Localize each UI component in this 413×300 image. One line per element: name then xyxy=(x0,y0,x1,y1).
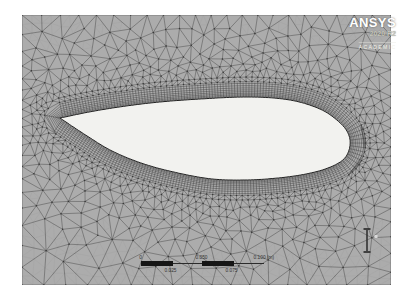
scale-label-max: 0.100 (m) xyxy=(254,255,275,260)
ansys-logo: ANSYS 2020 R2 ACADEMIC xyxy=(334,16,396,53)
ansys-release-text: 2020 R2 xyxy=(334,30,396,37)
mesh-viewport[interactable]: ANSYS 2020 R2 ACADEMIC 0 0.050 0.100 (m)… xyxy=(22,15,391,285)
scale-label-mid: 0.050 xyxy=(196,255,208,260)
scale-bar-segment-2 xyxy=(202,261,234,266)
scale-label-threequarter: 0.075 xyxy=(226,268,238,273)
scale-label-quarter: 0.025 xyxy=(165,268,177,273)
scale-bar: 0 0.050 0.100 (m) 0.025 0.075 xyxy=(141,254,273,278)
scale-bar-segment-1 xyxy=(141,261,173,266)
highlight-node xyxy=(375,235,378,238)
ansys-license-text: ACADEMIC xyxy=(358,42,396,50)
ansys-brand-text: ANSYS xyxy=(334,16,396,29)
mesh-canvas xyxy=(22,15,391,285)
scale-label-0: 0 xyxy=(139,255,142,260)
